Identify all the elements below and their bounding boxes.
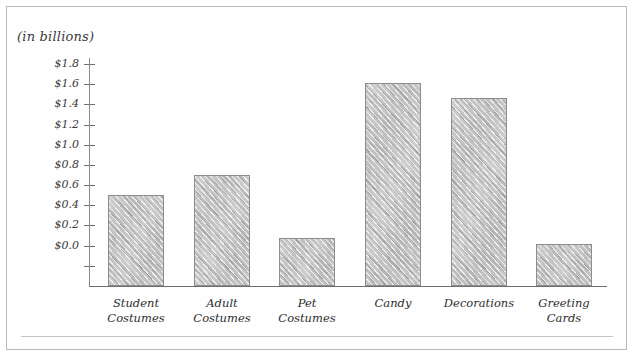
y-axis-tick-label: $1.6 (27, 77, 79, 90)
footer-divider-rule (21, 336, 613, 337)
y-axis-tick-label: $1.4 (27, 97, 79, 110)
x-axis-category-label-line: Costumes (264, 311, 350, 326)
x-axis-category-label: AdultCostumes (179, 296, 265, 326)
x-axis-baseline (89, 286, 607, 287)
bar (451, 98, 507, 286)
y-axis-tick-label: $1.8 (27, 57, 79, 70)
bar (279, 238, 335, 286)
y-axis-tick-label: $1.2 (27, 118, 79, 131)
bar (536, 244, 592, 286)
y-axis-line (89, 58, 90, 286)
y-axis-tick-label: $0.4 (27, 198, 79, 211)
y-axis-unit-title: (in billions) (17, 29, 94, 44)
y-axis-tick-label: $0.2 (27, 218, 79, 231)
x-axis-category-label: Candy (350, 296, 436, 311)
x-axis-category-label: Decorations (436, 296, 522, 311)
y-axis-tick-label: $0.8 (27, 158, 79, 171)
x-axis-category-label: PetCostumes (264, 296, 350, 326)
y-axis-tick-label: $0.0 (27, 239, 79, 252)
x-axis-category-label-line: Costumes (93, 311, 179, 326)
y-axis-tick-label: $0.6 (27, 178, 79, 191)
x-axis-category-label-line: Candy (350, 296, 436, 311)
y-axis-tick-label: $1.0 (27, 138, 79, 151)
bar (365, 83, 421, 286)
chart-frame: (in billions) $0.0$0.2$0.4$0.6$0.8$1.0$1… (6, 6, 627, 350)
x-axis-category-label-line: Costumes (179, 311, 265, 326)
x-axis-category-label-line: Pet (264, 296, 350, 311)
x-axis-category-label: GreetingCards (521, 296, 607, 326)
bar-chart-plot-area: (in billions) $0.0$0.2$0.4$0.6$0.8$1.0$1… (7, 7, 628, 351)
x-axis-category-label-line: Greeting (521, 296, 607, 311)
bar (108, 195, 164, 286)
x-axis-category-label-line: Adult (179, 296, 265, 311)
x-axis-category-label-line: Decorations (436, 296, 522, 311)
x-axis-category-label: StudentCostumes (93, 296, 179, 326)
x-axis-category-label-line: Cards (521, 311, 607, 326)
bar (194, 175, 250, 286)
x-axis-category-label-line: Student (93, 296, 179, 311)
